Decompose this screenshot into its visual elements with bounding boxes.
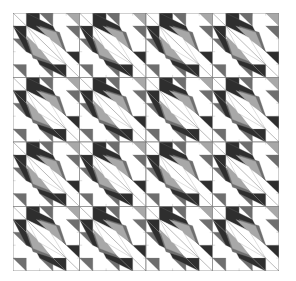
quilt-block xyxy=(213,142,280,207)
quilt-block xyxy=(13,142,80,207)
quilt-block xyxy=(80,78,147,143)
quilt-block xyxy=(146,78,213,143)
quilt-grid xyxy=(13,13,279,271)
quilt-block xyxy=(146,142,213,207)
quilt-block xyxy=(80,142,147,207)
quilt-block xyxy=(213,13,280,78)
quilt-block xyxy=(213,207,280,272)
quilt-block xyxy=(13,13,80,78)
quilt-block xyxy=(80,13,147,78)
quilt-pattern xyxy=(13,13,279,271)
quilt-block xyxy=(80,207,147,272)
quilt-block xyxy=(213,78,280,143)
quilt-block xyxy=(146,207,213,272)
quilt-block xyxy=(13,207,80,272)
quilt-block xyxy=(13,78,80,143)
quilt-block xyxy=(146,13,213,78)
